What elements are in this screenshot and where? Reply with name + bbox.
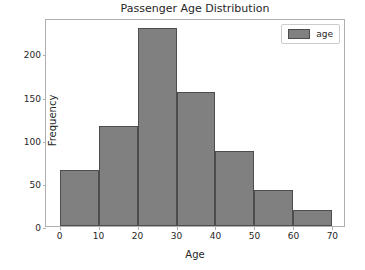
legend-swatch-age xyxy=(288,29,310,39)
chart-title: Passenger Age Distribution xyxy=(45,2,345,16)
histogram-bar xyxy=(60,170,99,226)
histogram-bar xyxy=(254,190,293,226)
x-tick-mark xyxy=(254,226,255,230)
x-tick-mark xyxy=(177,226,178,230)
x-axis-label: Age xyxy=(45,249,345,260)
x-tick-mark xyxy=(332,226,333,230)
x-tick-mark xyxy=(215,226,216,230)
x-tick-label: 70 xyxy=(327,231,338,241)
y-tick-label: 150 xyxy=(24,94,41,104)
histogram-bar xyxy=(138,28,177,227)
x-tick-label: 50 xyxy=(249,231,260,241)
x-tick-mark xyxy=(293,226,294,230)
y-tick-label: 100 xyxy=(24,137,41,147)
x-tick-mark xyxy=(138,226,139,230)
legend-label-age: age xyxy=(316,29,333,39)
histogram-bar xyxy=(99,126,138,226)
x-tick-label: 10 xyxy=(93,231,104,241)
x-tick-label: 40 xyxy=(210,231,221,241)
x-tick-mark xyxy=(99,226,100,230)
y-tick-mark xyxy=(43,228,47,229)
plot-area: Frequency 050100150200 010203040506070 a… xyxy=(45,19,345,227)
histogram-bar xyxy=(293,210,332,226)
x-tick-label: 0 xyxy=(57,231,63,241)
histogram-figure: Passenger Age Distribution Frequency 050… xyxy=(0,0,365,270)
bars-layer xyxy=(46,20,344,226)
histogram-bar xyxy=(215,151,254,226)
y-tick-label: 200 xyxy=(24,50,41,60)
x-tick-mark xyxy=(60,226,61,230)
x-tick-label: 60 xyxy=(288,231,299,241)
y-tick-label: 0 xyxy=(35,223,41,233)
chart-legend: age xyxy=(281,24,340,44)
x-tick-label: 20 xyxy=(132,231,143,241)
histogram-bar xyxy=(177,92,216,226)
x-tick-label: 30 xyxy=(171,231,182,241)
y-tick-label: 50 xyxy=(30,180,41,190)
